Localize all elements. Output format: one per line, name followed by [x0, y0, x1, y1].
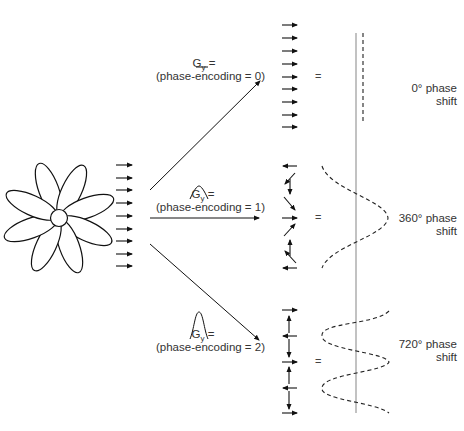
- encoding-label-1: (phase-encoding = 1): [156, 201, 265, 214]
- flower-icon: [1, 160, 117, 276]
- input-spin-arrows: [116, 165, 132, 266]
- encoding-label-0: (phase-encoding = 0): [156, 70, 265, 83]
- spins-phase-0: [282, 25, 297, 127]
- phase-shift-label-2: 720° phase shift: [380, 338, 457, 364]
- phase-shift-label-1: 360° phase shift: [380, 212, 457, 238]
- equals-sign-1: =: [315, 211, 321, 223]
- spins-phase-2: [282, 310, 297, 413]
- encoding-label-2: (phase-encoding = 2): [156, 341, 265, 354]
- equals-sign-2: =: [315, 355, 321, 367]
- spins-phase-1: [282, 166, 297, 268]
- equals-sign-0: =: [315, 70, 321, 82]
- phase-shift-label-0: 0° phase shift: [380, 82, 457, 108]
